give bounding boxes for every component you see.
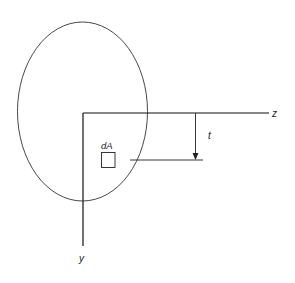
distance-label: t <box>208 130 212 141</box>
area-element-label: dA <box>101 140 113 151</box>
diagram-canvas: z y dA t <box>0 0 295 283</box>
z-axis-label: z <box>271 108 277 119</box>
area-element-square <box>102 153 116 168</box>
y-axis-label: y <box>78 253 85 264</box>
distance-arrowhead-icon <box>193 153 199 160</box>
